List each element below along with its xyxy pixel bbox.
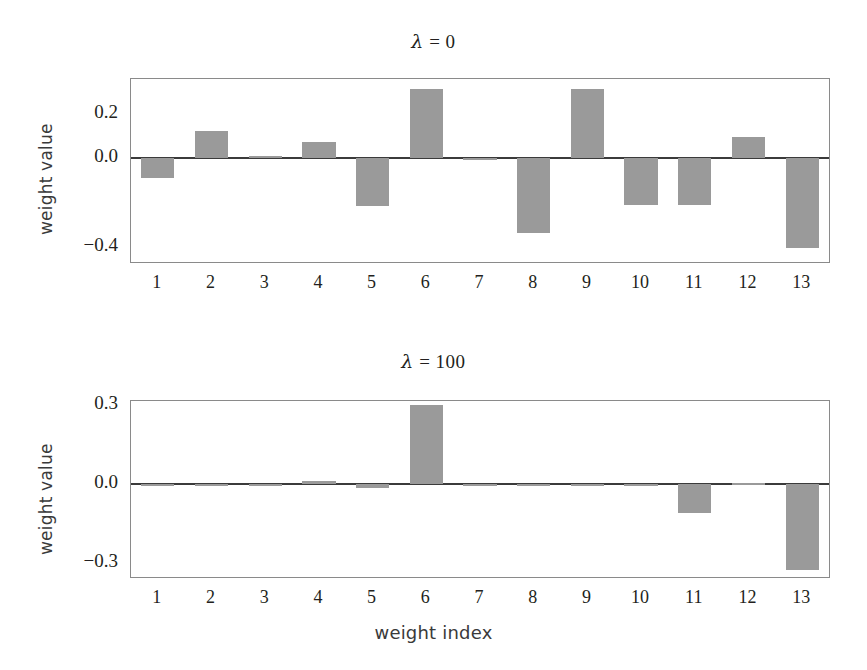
bar-4 <box>302 481 335 484</box>
bar-8 <box>517 158 550 233</box>
y-tick-mark-0 <box>130 158 131 159</box>
chart-title-top-rest: = 0 <box>424 31 456 52</box>
plot-area-bottom <box>130 400 830 578</box>
x-tick-label-4: 4 <box>298 272 338 293</box>
x-tick-mark-8 <box>534 262 535 263</box>
y-tick-label-0: 0.0 <box>22 471 118 493</box>
x-tick-label-6: 6 <box>405 272 445 293</box>
x-tick-label-5: 5 <box>352 587 392 608</box>
x-tick-label-9: 9 <box>566 587 606 608</box>
bar-2 <box>195 131 228 159</box>
bar-12 <box>732 137 765 158</box>
bar-10 <box>624 158 657 204</box>
x-tick-mark-2 <box>212 577 213 578</box>
x-tick-label-10: 10 <box>620 272 660 293</box>
x-tick-mark-2 <box>212 262 213 263</box>
x-tick-label-5: 5 <box>352 272 392 293</box>
bar-6 <box>410 405 443 484</box>
x-tick-label-13: 13 <box>781 272 821 293</box>
chart-panel-lambda-0: λ = 0 weight value 123456789101112130.20… <box>0 30 867 330</box>
y-tick-mark--0-4 <box>130 247 131 248</box>
y-tick-mark--0-3 <box>130 563 131 564</box>
x-tick-label-2: 2 <box>191 587 231 608</box>
y-tick-mark-0-2 <box>130 114 131 115</box>
x-tick-label-8: 8 <box>513 587 553 608</box>
x-tick-mark-7 <box>480 577 481 578</box>
y-tick-mark--0-2 <box>130 202 131 203</box>
x-tick-label-2: 2 <box>191 272 231 293</box>
y-tick-label-0: 0.0 <box>22 145 118 167</box>
x-tick-mark-9 <box>587 577 588 578</box>
x-tick-mark-3 <box>265 577 266 578</box>
x-tick-label-10: 10 <box>620 587 660 608</box>
y-tick-label-0-3: 0.3 <box>22 392 118 414</box>
y-tick-label-0-2: 0.2 <box>22 101 118 123</box>
x-tick-mark-13 <box>802 577 803 578</box>
x-tick-mark-12 <box>748 262 749 263</box>
x-tick-mark-4 <box>319 577 320 578</box>
x-tick-label-7: 7 <box>459 587 499 608</box>
bar-13 <box>786 484 819 571</box>
lambda-symbol-bottom: λ <box>401 350 414 372</box>
x-tick-label-4: 4 <box>298 587 338 608</box>
lambda-symbol-top: λ <box>411 30 424 52</box>
x-tick-label-1: 1 <box>137 587 177 608</box>
x-tick-mark-3 <box>265 262 266 263</box>
bar-3 <box>249 484 282 486</box>
x-tick-mark-11 <box>695 577 696 578</box>
y-axis-title-top: weight value <box>36 123 56 235</box>
x-tick-label-3: 3 <box>244 587 284 608</box>
x-tick-mark-11 <box>695 262 696 263</box>
chart-panel-lambda-100: λ = 100 weight value 123456789101112130.… <box>0 350 867 650</box>
bar-7 <box>463 484 496 486</box>
chart-title-bottom-rest: = 100 <box>414 351 466 372</box>
x-axis-title: weight index <box>0 622 867 643</box>
x-tick-mark-5 <box>373 262 374 263</box>
x-tick-mark-6 <box>426 577 427 578</box>
bar-8 <box>517 484 550 486</box>
x-tick-mark-5 <box>373 577 374 578</box>
bar-5 <box>356 484 389 489</box>
x-tick-label-6: 6 <box>405 587 445 608</box>
bar-12 <box>732 483 765 485</box>
plot-area-top <box>130 78 830 263</box>
bar-13 <box>786 158 819 247</box>
bar-7 <box>463 158 496 160</box>
y-tick-mark-0 <box>130 484 131 485</box>
x-tick-label-13: 13 <box>781 587 821 608</box>
bar-4 <box>302 142 335 159</box>
x-tick-mark-6 <box>426 262 427 263</box>
x-tick-label-8: 8 <box>513 272 553 293</box>
bar-3 <box>249 156 282 158</box>
y-tick-label--0-4: −0.4 <box>22 234 118 256</box>
x-tick-mark-1 <box>158 262 159 263</box>
x-tick-mark-10 <box>641 262 642 263</box>
x-tick-mark-9 <box>587 262 588 263</box>
y-tick-label--0-3: −0.3 <box>22 550 118 572</box>
x-tick-label-11: 11 <box>674 587 714 608</box>
x-tick-label-3: 3 <box>244 272 284 293</box>
bar-6 <box>410 89 443 158</box>
bar-2 <box>195 484 228 486</box>
figure-root: λ = 0 weight value 123456789101112130.20… <box>0 0 867 670</box>
chart-title-bottom: λ = 100 <box>0 350 867 373</box>
x-tick-label-12: 12 <box>727 587 767 608</box>
y-axis-title-bottom: weight value <box>36 443 56 555</box>
x-tick-label-11: 11 <box>674 272 714 293</box>
bar-1 <box>141 158 174 178</box>
bar-9 <box>571 89 604 158</box>
x-tick-label-12: 12 <box>727 272 767 293</box>
x-tick-label-9: 9 <box>566 272 606 293</box>
bar-11 <box>678 158 711 204</box>
y-tick-mark-0-3 <box>130 405 131 406</box>
x-tick-label-1: 1 <box>137 272 177 293</box>
x-tick-label-7: 7 <box>459 272 499 293</box>
bar-10 <box>624 484 657 486</box>
bar-11 <box>678 484 711 513</box>
x-tick-mark-13 <box>802 262 803 263</box>
x-tick-mark-8 <box>534 577 535 578</box>
chart-title-top: λ = 0 <box>0 30 867 53</box>
x-tick-mark-10 <box>641 577 642 578</box>
bar-9 <box>571 484 604 486</box>
x-tick-mark-1 <box>158 577 159 578</box>
